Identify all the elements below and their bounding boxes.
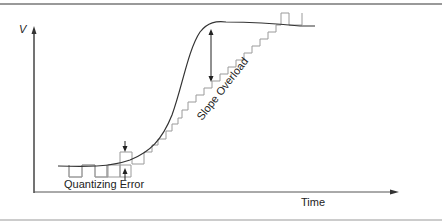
x-axis-label: Time [301, 196, 325, 208]
arrow-up-icon [209, 29, 214, 35]
slope-overload-marker [209, 29, 214, 82]
y-axis [32, 26, 37, 193]
delta-modulation-figure: V Time Quantizing Error Slope Overload [0, 0, 442, 223]
arrow-up-icon [123, 168, 128, 174]
y-axis-arrow-icon [32, 26, 37, 34]
y-axis-label: V [19, 23, 28, 35]
quantizing-error-label: Quantizing Error [64, 178, 144, 190]
staircase-main [107, 13, 302, 177]
analog-signal-curve [58, 22, 315, 167]
x-axis-arrow-icon [390, 190, 399, 195]
slope-overload-label: Slope Overload [194, 55, 250, 122]
x-axis [34, 190, 399, 195]
arrow-down-icon [123, 146, 128, 152]
